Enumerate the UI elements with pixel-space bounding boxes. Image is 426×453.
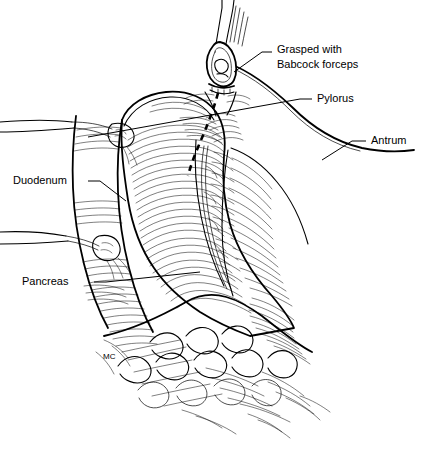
illustration-canvas: MC Grasped with Babcock forceps Pylorus … [0, 0, 426, 453]
label-duodenum: Duodenum [13, 174, 67, 186]
label-grasped-line1: Grasped with [277, 43, 342, 55]
label-pancreas: Pancreas [22, 275, 69, 287]
label-grasped-line2: Babcock forceps [277, 58, 359, 70]
surgical-illustration-figure: MC Grasped with Babcock forceps Pylorus … [0, 0, 426, 453]
label-pylorus: Pylorus [317, 92, 354, 104]
label-antrum: Antrum [371, 134, 406, 146]
artist-signature: MC [103, 352, 116, 361]
